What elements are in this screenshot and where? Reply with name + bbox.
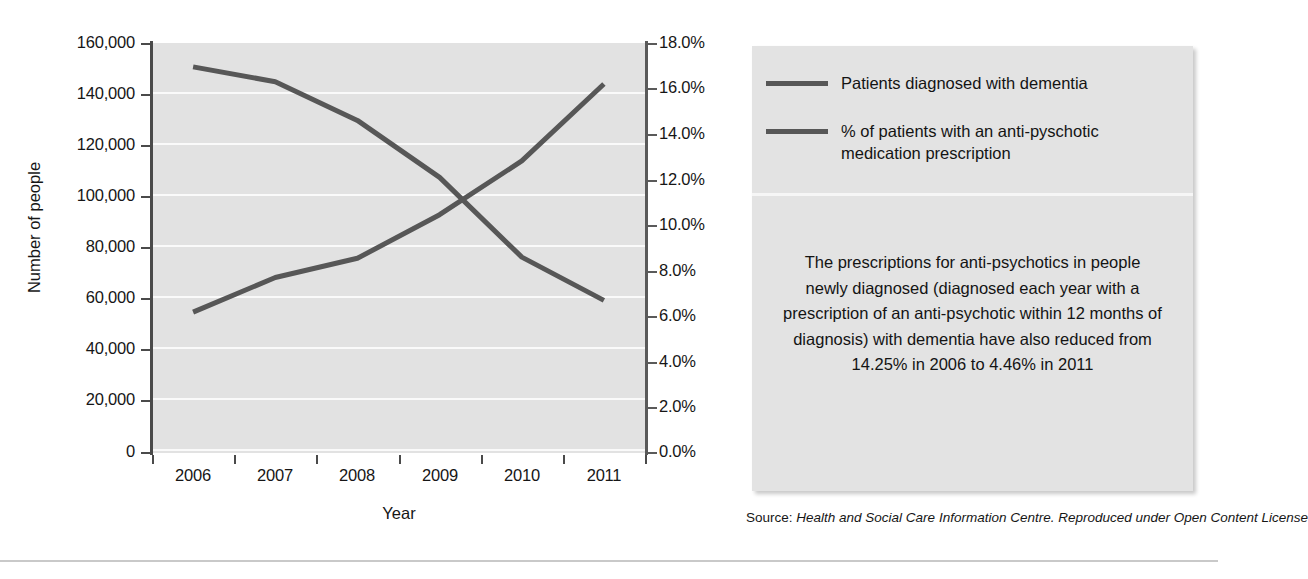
- x-tick: [481, 455, 483, 464]
- y-tick-right: [648, 407, 657, 409]
- y-tick-left: [141, 94, 150, 96]
- y-axis-label-left: 20,000: [25, 390, 135, 409]
- y-tick-left: [141, 452, 150, 454]
- plot-area: [152, 43, 645, 453]
- y-tick-left: [141, 298, 150, 300]
- y-axis-right-line: [645, 41, 648, 455]
- x-tick: [316, 455, 318, 464]
- x-tick: [645, 455, 647, 464]
- y-tick-right: [648, 225, 657, 227]
- y-tick-right: [648, 452, 657, 454]
- legend-label: % of patients with an anti-pyschotic med…: [841, 120, 1171, 164]
- y-tick-right: [648, 134, 657, 136]
- y-tick-right: [648, 180, 657, 182]
- chart-region: 160,000 140,000 120,000 100,000 80,000 6…: [0, 0, 720, 560]
- x-tick: [152, 455, 154, 464]
- y-tick-left: [141, 196, 150, 198]
- gridline: [152, 296, 645, 298]
- legend-item-antipsychotic: % of patients with an anti-pyschotic med…: [752, 120, 1193, 164]
- gridline: [152, 194, 645, 196]
- legend-swatch-icon: [766, 129, 828, 134]
- y-tick-right: [648, 271, 657, 273]
- y-axis-label-right: 8.0%: [659, 261, 696, 280]
- y-axis-label-right: 16.0%: [659, 78, 705, 97]
- x-axis-label: 2011: [559, 466, 649, 485]
- gridline: [152, 245, 645, 247]
- source-body: Health and Social Care Information Centr…: [796, 510, 1308, 525]
- gridline: [152, 347, 645, 349]
- y-axis-label-right: 6.0%: [659, 306, 696, 325]
- y-tick-right: [648, 316, 657, 318]
- legend-label: Patients diagnosed with dementia: [841, 72, 1088, 94]
- y-axis-label-left: 140,000: [25, 84, 135, 103]
- y-tick-right: [648, 88, 657, 90]
- y-axis-label-left: 0: [25, 442, 135, 461]
- y-axis-title: Number of people: [25, 108, 44, 348]
- bottom-divider: [0, 560, 1218, 562]
- panel-divider: [752, 193, 1193, 196]
- y-tick-right: [648, 43, 657, 45]
- y-axis-label-right: 12.0%: [659, 170, 705, 189]
- x-axis-label: 2008: [312, 466, 402, 485]
- x-axis-title: Year: [349, 504, 449, 523]
- panel-note-text: The prescriptions for anti-psychotics in…: [782, 250, 1163, 378]
- y-tick-left: [141, 349, 150, 351]
- source-attribution: Source: Health and Social Care Informati…: [746, 510, 1308, 525]
- legend-and-note-panel: Patients diagnosed with dementia % of pa…: [752, 46, 1193, 491]
- legend: Patients diagnosed with dementia % of pa…: [752, 72, 1193, 190]
- x-axis-label: 2006: [148, 466, 238, 485]
- gridline: [152, 92, 645, 94]
- gridline: [152, 449, 645, 451]
- y-tick-left: [141, 43, 150, 45]
- y-axis-label-right: 2.0%: [659, 397, 696, 416]
- x-axis-label: 2010: [477, 466, 567, 485]
- y-axis-label-right: 0.0%: [659, 442, 696, 461]
- gridline: [152, 143, 645, 145]
- y-tick-left: [141, 247, 150, 249]
- x-axis-label: 2007: [230, 466, 320, 485]
- y-axis-left-line: [150, 41, 153, 455]
- y-tick-left: [141, 145, 150, 147]
- legend-swatch-icon: [766, 81, 828, 86]
- x-tick: [563, 455, 565, 464]
- x-axis-label: 2009: [395, 466, 485, 485]
- y-axis-label-right: 10.0%: [659, 215, 705, 234]
- x-tick: [234, 455, 236, 464]
- y-tick-right: [648, 362, 657, 364]
- source-label: Source:: [746, 510, 793, 525]
- x-tick: [399, 455, 401, 464]
- y-axis-label-left: 160,000: [25, 33, 135, 52]
- y-axis-label-right: 4.0%: [659, 352, 696, 371]
- y-axis-label-right: 14.0%: [659, 124, 705, 143]
- y-tick-left: [141, 400, 150, 402]
- legend-item-dementia: Patients diagnosed with dementia: [752, 72, 1193, 94]
- y-axis-label-right: 18.0%: [659, 33, 705, 52]
- gridline: [152, 398, 645, 400]
